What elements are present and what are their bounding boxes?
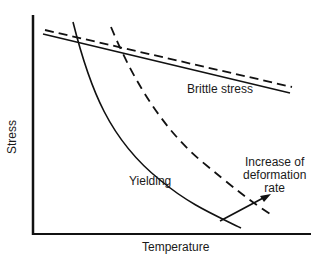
brittle-stress-dashed-line [45, 30, 292, 87]
brittle-stress-label: Brittle stress [187, 83, 253, 96]
diagram-canvas [0, 0, 327, 261]
rate-label: Increase of deformation rate [243, 156, 306, 195]
rate-arrow-line [220, 197, 265, 221]
rate-label-line-3: rate [243, 182, 306, 195]
yielding-label: Yielding [129, 175, 171, 188]
y-axis-label: Stress [5, 120, 19, 154]
x-axis-label: Temperature [142, 241, 209, 254]
yielding-curve [73, 22, 241, 228]
arrow-head-icon [260, 194, 271, 202]
